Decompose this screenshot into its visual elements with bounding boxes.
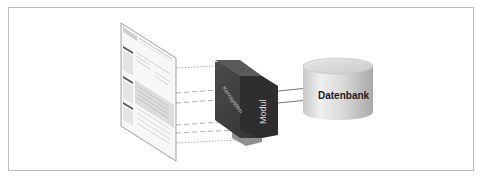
module-box: Kernsystem Modul [215, 60, 278, 146]
architecture-diagram: Kernsystem Modul Datenbank [0, 0, 483, 181]
database-label: Datenbank [318, 90, 370, 101]
database-cylinder: Datenbank [303, 58, 373, 120]
modul-label: Modul [258, 99, 268, 124]
database-top [303, 58, 373, 74]
website-page [121, 23, 176, 161]
